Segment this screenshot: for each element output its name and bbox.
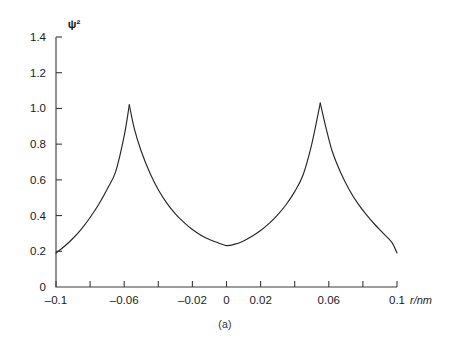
- x-tick-label: 0.1: [389, 294, 405, 306]
- axis-titles: ψ²r/nm: [68, 18, 432, 306]
- psi-squared-plot: –0.1–0.06–0.0200.020.060.1 00.20.40.60.8…: [0, 0, 450, 348]
- y-axis-label: ψ²: [68, 18, 81, 30]
- y-tick-label: 0.6: [30, 174, 46, 186]
- psi-squared-curve: [129, 103, 320, 246]
- y-tick-labels: 00.20.40.60.81.01.21.4: [30, 31, 47, 293]
- psi-squared-curve: [320, 103, 397, 253]
- x-tick-label: –0.06: [110, 294, 139, 306]
- y-tick-label: 1.2: [30, 67, 46, 79]
- x-tick-label: –0.1: [45, 294, 67, 306]
- y-tick-label: 0: [40, 281, 46, 293]
- x-tick-labels: –0.1–0.06–0.0200.020.060.1: [45, 294, 405, 306]
- psi-squared-curve: [56, 105, 129, 253]
- x-axis-ticks: [56, 281, 397, 287]
- y-tick-label: 1.0: [30, 102, 46, 114]
- axes: [56, 37, 397, 287]
- figure-panel: –0.1–0.06–0.0200.020.060.1 00.20.40.60.8…: [0, 0, 450, 348]
- x-axis-label: r/nm: [410, 294, 432, 306]
- y-tick-label: 0.8: [30, 138, 46, 150]
- figure-caption: (a): [0, 318, 450, 330]
- axis-spines: [56, 37, 397, 287]
- data-curve: [56, 103, 397, 253]
- y-tick-label: 0.2: [30, 245, 46, 257]
- y-axis-ticks: [56, 37, 62, 251]
- x-tick-label: 0.02: [249, 294, 271, 306]
- x-tick-label: 0: [223, 294, 229, 306]
- y-tick-label: 1.4: [30, 31, 47, 43]
- x-tick-label: 0.06: [318, 294, 340, 306]
- y-tick-label: 0.4: [30, 210, 47, 222]
- x-tick-label: –0.02: [178, 294, 207, 306]
